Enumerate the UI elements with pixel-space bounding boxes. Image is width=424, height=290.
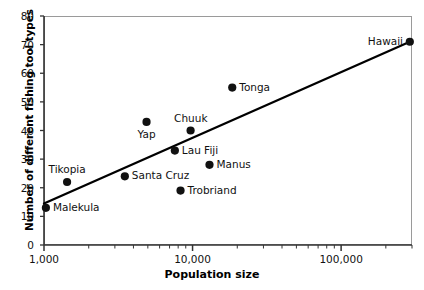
y-tick-label: 80 bbox=[8, 11, 34, 22]
point-label-malekula: Malekula bbox=[53, 202, 100, 213]
y-tick-label: 70 bbox=[8, 40, 34, 51]
data-point-tonga bbox=[228, 83, 236, 91]
data-point-malekula bbox=[42, 204, 50, 212]
data-point-manus bbox=[205, 161, 213, 169]
point-label-trobriand: Trobriand bbox=[188, 185, 237, 196]
data-point-yap bbox=[142, 118, 150, 126]
point-label-tikopia: Tikopia bbox=[49, 164, 86, 175]
point-label-chuuk: Chuuk bbox=[174, 113, 207, 124]
point-label-lau-fiji: Lau Fiji bbox=[182, 145, 218, 156]
x-tick-label: 10,000 bbox=[163, 254, 223, 265]
data-point-trobriand bbox=[176, 187, 184, 195]
point-label-tonga: Tonga bbox=[239, 82, 270, 93]
y-tick-label: 20 bbox=[8, 183, 34, 194]
y-tick-label: 0 bbox=[8, 240, 34, 251]
y-tick-label: 30 bbox=[8, 154, 34, 165]
x-tick-label: 100,000 bbox=[311, 254, 371, 265]
fishing-tool-scatter-figure: Number of different fishing tool types P… bbox=[0, 0, 424, 290]
x-axis-ticks bbox=[44, 245, 412, 251]
data-point-tikopia bbox=[63, 178, 71, 186]
point-label-manus: Manus bbox=[216, 159, 250, 170]
y-tick-label: 10 bbox=[8, 211, 34, 222]
data-point-chuuk bbox=[186, 126, 194, 134]
data-point-santa-cruz bbox=[121, 172, 129, 180]
trend-line bbox=[44, 42, 410, 204]
y-tick-label: 60 bbox=[8, 68, 34, 79]
x-tick-label: 1,000 bbox=[14, 254, 74, 265]
point-label-yap: Yap bbox=[138, 129, 156, 140]
data-point-hawaii bbox=[406, 38, 414, 46]
point-label-santa-cruz: Santa Cruz bbox=[132, 170, 189, 181]
data-point-lau-fiji bbox=[171, 146, 179, 154]
x-axis-title: Population size bbox=[0, 268, 424, 281]
point-label-hawaii: Hawaii bbox=[368, 36, 403, 47]
y-tick-label: 50 bbox=[8, 97, 34, 108]
y-tick-label: 40 bbox=[8, 126, 34, 137]
